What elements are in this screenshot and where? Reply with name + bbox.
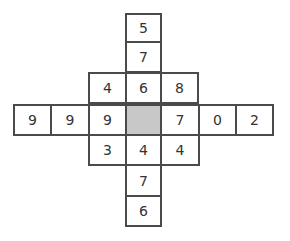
grid-cell-r0c3: 5 [125,13,162,43]
grid-cell-r4c2: 3 [88,134,127,166]
grid-cell-r2c2: 4 [88,72,127,104]
grid-cell-r1c3: 7 [125,41,162,73]
grid-cell-r2c3: 6 [125,72,162,104]
grid-cell-r6c3: 6 [125,195,162,227]
grid-cell-r3c5: 0 [198,104,237,136]
grid-cell-r3c0: 9 [13,104,52,136]
grid-cell-r3c1: 9 [50,104,90,136]
grid-cell-r4c3: 4 [125,134,162,166]
grid-cell-r2c4: 8 [160,72,199,104]
grid-cell-r3c4: 7 [160,104,200,136]
grid-cell-r3c6: 2 [235,104,274,136]
grid-cell-r5c3: 7 [125,164,162,197]
grid-cell-missing [125,104,162,136]
grid-cell-r4c4: 4 [160,134,200,166]
grid-cell-r3c2: 9 [88,104,127,136]
